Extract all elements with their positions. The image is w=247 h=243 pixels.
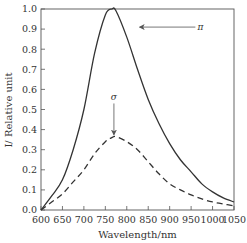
x-tick-label: 750 bbox=[96, 214, 114, 225]
y-tick-label: 0.2 bbox=[22, 164, 37, 175]
x-tick-label: 950 bbox=[182, 214, 200, 225]
x-tick-label: 800 bbox=[118, 214, 136, 225]
y-tick-label: 0.8 bbox=[22, 44, 37, 55]
y-tick-label: 0.4 bbox=[22, 124, 37, 135]
x-tick-label: 600 bbox=[32, 214, 50, 225]
series-pi-line bbox=[41, 8, 234, 210]
x-tick-label: 850 bbox=[139, 214, 157, 225]
x-tick-label: 900 bbox=[161, 214, 179, 225]
x-tick-label: 700 bbox=[75, 214, 93, 225]
y-tick-label: 0.5 bbox=[22, 104, 37, 115]
plot-frame bbox=[41, 9, 234, 210]
pi-label: π bbox=[196, 22, 204, 32]
x-axis: 60065070075080085090095010001050 bbox=[32, 206, 246, 225]
sigma-label: σ bbox=[111, 92, 118, 102]
y-tick-label: 0.6 bbox=[22, 84, 37, 95]
y-tick-label: 0.9 bbox=[22, 23, 37, 34]
y-tick-label: 1.0 bbox=[22, 3, 37, 14]
y-tick-label: 0.3 bbox=[22, 144, 37, 155]
series-sigma-line bbox=[41, 136, 234, 210]
series-layer bbox=[41, 8, 234, 210]
x-tick-label: 650 bbox=[53, 214, 71, 225]
y-tick-label: 0.1 bbox=[22, 184, 37, 195]
y-axis-title: I/ Relative unit bbox=[3, 72, 14, 147]
plot-border bbox=[41, 9, 234, 210]
y-axis: 0.00.10.20.30.40.50.60.70.80.91.0 bbox=[22, 3, 45, 215]
annotations: πσ bbox=[111, 22, 205, 135]
y-tick-label: 0.7 bbox=[22, 64, 37, 75]
x-tick-label: 1050 bbox=[222, 214, 246, 225]
chart: 0.00.10.20.30.40.50.60.70.80.91.0 600650… bbox=[0, 0, 247, 243]
x-axis-title: Wavelength/nm bbox=[98, 229, 177, 240]
